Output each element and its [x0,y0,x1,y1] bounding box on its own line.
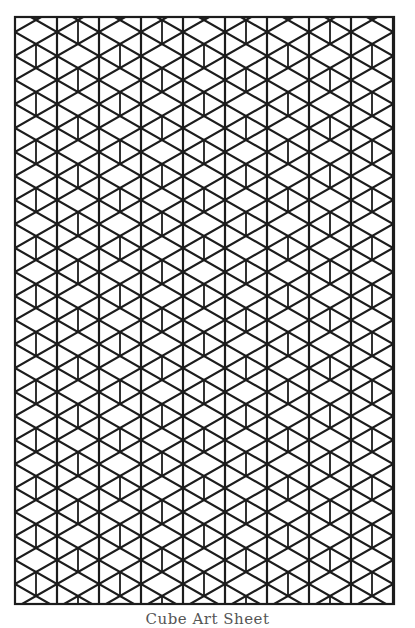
isometric-cube-grid [10,0,399,620]
sheet-caption: Cube Art Sheet [0,610,415,628]
